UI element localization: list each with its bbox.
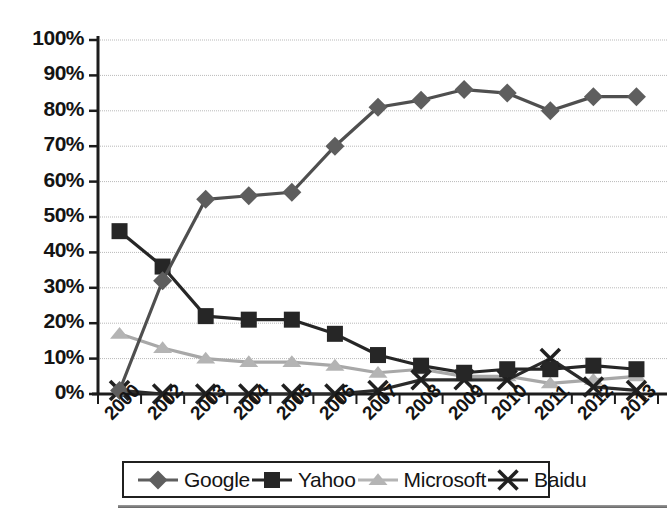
square-marker [241,312,257,328]
search-engine-market-share-chart: 100%90%80%70%60%50%40%30%20%10%0% 200020… [0,0,671,528]
diamond-marker [541,101,560,120]
square-marker [456,365,472,381]
diamond-marker [136,469,180,491]
y-axis-tick-label: 70% [0,132,84,156]
caption-rule-divider [118,505,667,508]
square-marker [250,469,294,491]
y-axis-tick-label: 100% [0,26,84,50]
y-axis-tick-label: 10% [0,345,84,369]
diamond-marker [498,84,517,103]
square-marker [284,312,300,328]
square-marker [628,361,644,377]
diamond-marker [239,186,258,205]
square-marker [370,347,386,363]
y-axis-tick-label: 50% [0,203,84,227]
diamond-marker [627,87,646,106]
legend-item-google[interactable]: Google [136,468,250,492]
x-marker [486,469,530,491]
square-marker [413,358,429,374]
square-marker [542,361,558,377]
series-line-google [120,90,637,391]
triangle-marker [356,469,400,491]
caption-text-fragment [30,518,635,528]
square-marker [499,361,515,377]
y-axis-tick-label: 90% [0,61,84,85]
diamond-marker [196,190,215,209]
y-axis-tick-label: 30% [0,274,84,298]
y-axis-tick-label: 80% [0,97,84,121]
legend-label: Baidu [534,468,586,492]
legend-item-baidu[interactable]: Baidu [486,468,586,492]
y-axis-tick-label: 0% [0,380,84,404]
diamond-marker [412,91,431,110]
series-yahoo [112,223,645,381]
y-axis-tick-label: 20% [0,309,84,333]
square-marker [264,472,280,488]
triangle-marker [110,327,129,339]
legend-item-microsoft[interactable]: Microsoft [356,468,486,492]
legend-label: Google [184,468,250,492]
square-marker [112,223,128,239]
legend-item-yahoo[interactable]: Yahoo [250,468,356,492]
legend-label: Microsoft [404,468,486,492]
legend-label: Yahoo [298,468,356,492]
y-axis-tick-label: 60% [0,168,84,192]
diamond-marker [584,87,603,106]
y-gridlines [98,40,667,394]
chart-legend: GoogleYahooMicrosoftBaidu [122,461,550,498]
diamond-marker [149,470,168,489]
square-marker [585,358,601,374]
y-axis-tick-label: 40% [0,238,84,262]
square-marker [198,308,214,324]
square-marker [327,326,343,342]
diamond-marker [455,80,474,99]
